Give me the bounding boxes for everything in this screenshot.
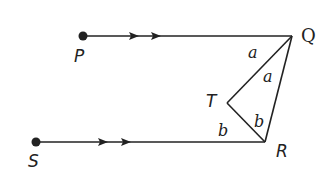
label-s: S [28,151,39,171]
angle-label-a-lower: a [263,67,273,86]
label-p: P [74,46,85,66]
label-t: T [206,91,218,111]
point-p-dot [79,32,88,41]
angle-label-b-inner: b [254,112,264,131]
angle-label-b-outer: b [218,121,228,140]
label-r: R [276,141,288,161]
point-s-dot [32,138,41,147]
angle-label-a-upper: a [248,43,258,62]
label-q: Q [301,25,316,46]
line-qr [265,36,292,142]
geometry-diagram: P Q R S T a a b b [0,0,332,180]
line-qt [227,36,292,103]
